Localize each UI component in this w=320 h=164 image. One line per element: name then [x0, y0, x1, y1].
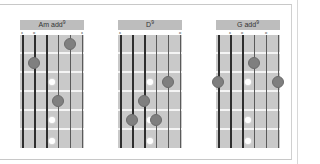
- fret-line: [20, 128, 84, 130]
- fret-line: [118, 128, 182, 130]
- guitar-string: [230, 35, 232, 148]
- finger-position-dot: [52, 95, 64, 107]
- finger-position-dot: [150, 114, 162, 126]
- fret-inlay-marker: [49, 138, 55, 144]
- finger-position-dot: [126, 114, 138, 126]
- fret-inlay-marker: [147, 79, 153, 85]
- guitar-string: [120, 35, 122, 148]
- guitar-string: [22, 35, 24, 148]
- chord-extension: 9: [63, 19, 66, 25]
- fret-line: [118, 90, 182, 92]
- chord-diagram: G add9xoo: [216, 0, 280, 164]
- finger-position-dot: [138, 95, 150, 107]
- guitar-string: [82, 35, 83, 148]
- guitar-string: [46, 35, 48, 148]
- fret-line: [20, 52, 84, 54]
- fret-line: [118, 71, 182, 73]
- page-edge-divider: [297, 0, 298, 164]
- fret-line: [216, 128, 280, 130]
- fret-inlay-marker: [49, 117, 55, 123]
- chord-title: D9: [118, 20, 182, 30]
- guitar-string: [70, 35, 71, 148]
- fret-inlay-marker: [245, 79, 251, 85]
- chord-name: Am add: [39, 21, 63, 28]
- chord-title: Am add9: [20, 20, 84, 30]
- guitar-string: [168, 35, 169, 148]
- finger-position-dot: [272, 76, 284, 88]
- fretboard: [118, 35, 182, 148]
- chord-extension: 9: [256, 19, 259, 25]
- finger-position-dot: [162, 76, 174, 88]
- fret-inlay-marker: [245, 117, 251, 123]
- chord-title: G add9: [216, 20, 280, 30]
- guitar-string: [242, 35, 244, 148]
- guitar-string: [180, 35, 181, 148]
- chord-diagram: Am add9xox: [20, 0, 84, 164]
- fretboard: [20, 35, 84, 148]
- fret-line: [118, 109, 182, 111]
- finger-position-dot: [28, 57, 40, 69]
- chord-diagram: D9xo: [118, 0, 182, 164]
- guitar-string: [144, 35, 146, 148]
- guitar-string: [34, 35, 36, 148]
- fret-line: [20, 71, 84, 73]
- guitar-string: [278, 35, 279, 148]
- fret-line: [216, 52, 280, 54]
- fret-line: [20, 109, 84, 111]
- guitar-string: [218, 35, 220, 148]
- fret-line: [216, 71, 280, 73]
- fret-inlay-marker: [49, 79, 55, 85]
- finger-position-dot: [64, 38, 76, 50]
- fret-line: [118, 52, 182, 54]
- fret-inlay-marker: [245, 138, 251, 144]
- fret-line: [20, 90, 84, 92]
- fret-line: [216, 109, 280, 111]
- guitar-string: [254, 35, 255, 148]
- finger-position-dot: [212, 76, 224, 88]
- finger-position-dot: [248, 57, 260, 69]
- fret-line: [216, 90, 280, 92]
- guitar-string: [156, 35, 157, 148]
- guitar-string: [266, 35, 267, 148]
- fret-inlay-marker: [147, 138, 153, 144]
- chord-name: G add: [237, 21, 256, 28]
- chord-extension: 9: [151, 19, 154, 25]
- guitar-string: [58, 35, 59, 148]
- guitar-string: [132, 35, 134, 148]
- fretboard: [216, 35, 280, 148]
